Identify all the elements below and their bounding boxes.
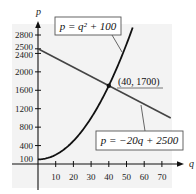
y-tick-label: 2800 bbox=[15, 30, 34, 40]
demand-equation-label: p = −20q + 2500 bbox=[100, 134, 179, 146]
x-axis-label: q bbox=[189, 158, 194, 169]
y-tick-label: 1200 bbox=[15, 104, 34, 114]
x-tick-label: 70 bbox=[157, 172, 167, 182]
y-tick-label: 100 bbox=[20, 154, 34, 164]
y-tick-label: 800 bbox=[20, 122, 34, 132]
y-axis-label: p bbox=[35, 6, 41, 17]
intersection-point bbox=[107, 83, 111, 87]
x-tick-label: 30 bbox=[87, 172, 97, 182]
y-tick-label: 2000 bbox=[15, 67, 34, 77]
x-tick-label: 10 bbox=[51, 172, 61, 182]
supply-equation-label: p = q² + 100 bbox=[59, 20, 117, 32]
x-tick-label: 40 bbox=[104, 172, 114, 182]
x-tick-label: 60 bbox=[140, 172, 150, 182]
intersection-label: (40, 1700) bbox=[118, 76, 160, 88]
chart: qp 1020304050607010040080012001600200024… bbox=[0, 0, 196, 194]
y-tick-label: 1600 bbox=[15, 85, 34, 95]
x-tick-label: 20 bbox=[69, 172, 79, 182]
y-tick-label: 2500 bbox=[15, 42, 34, 52]
x-axis-arrow-icon bbox=[177, 161, 184, 167]
y-tick-label: 2400 bbox=[15, 50, 34, 60]
y-tick-label: 400 bbox=[20, 141, 34, 151]
x-tick-label: 50 bbox=[122, 172, 132, 182]
